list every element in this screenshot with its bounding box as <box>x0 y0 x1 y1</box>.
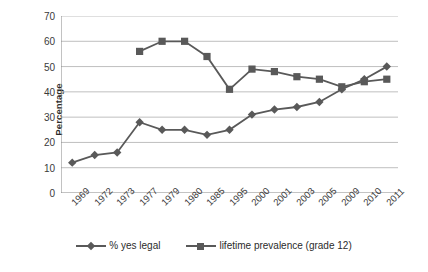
x-tick-label: 2005 <box>316 185 339 208</box>
x-tick-label: 1973 <box>114 185 137 208</box>
x-tick-label: 2011 <box>384 186 406 208</box>
legend-marker-square-icon <box>186 240 216 251</box>
x-tick-label: 2000 <box>249 185 272 208</box>
x-tick-label: 1979 <box>159 185 182 208</box>
chart-legend: % yes legal lifetime prevalence (grade 1… <box>0 240 428 251</box>
x-tick-label: 2001 <box>271 185 294 208</box>
legend-label-lifetime-prevalence: lifetime prevalence (grade 12) <box>219 240 351 251</box>
x-tick-label: 1969 <box>69 185 92 208</box>
x-tick-label: 1985 <box>204 185 227 208</box>
legend-label-yes-legal: % yes legal <box>109 240 160 251</box>
x-tick-label: 1977 <box>137 185 160 208</box>
x-tick-label: 1980 <box>182 185 205 208</box>
legend-item-lifetime-prevalence: lifetime prevalence (grade 12) <box>186 240 351 251</box>
legend-marker-diamond-icon <box>76 240 106 251</box>
x-tick-label: 1995 <box>227 185 250 208</box>
x-tick-label: 2009 <box>339 185 362 208</box>
chart-container: Percentage 706050403020100 1969197219731… <box>0 0 428 272</box>
x-tick-label: 1972 <box>92 185 115 208</box>
x-tick-label: 2003 <box>294 185 317 208</box>
legend-item-yes-legal: % yes legal <box>76 240 160 251</box>
x-axis-tick-labels: 1969197219731977197919801985199520002001… <box>0 0 428 272</box>
x-tick-label: 2010 <box>361 185 384 208</box>
